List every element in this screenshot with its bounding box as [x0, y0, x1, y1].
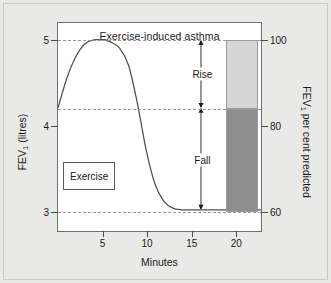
- x-tick-15: [192, 231, 193, 237]
- y-axis-right-title: FEV1 per cent predicted: [301, 86, 313, 198]
- figure-container: FEV1 (litres) FEV1 per cent predicted Mi…: [0, 0, 331, 283]
- y-tick-label-left-4: 4: [43, 120, 49, 131]
- y-tick-label-left-5: 5: [43, 35, 49, 46]
- bar-segment-rise: [226, 40, 258, 109]
- y-tick-right-100: [261, 40, 268, 41]
- y-tick-label-right-80: 80: [270, 120, 281, 131]
- y-tick-right-60: [261, 212, 268, 213]
- bar-segment-fall: [226, 109, 258, 212]
- arrow-head-fall-bottom: [198, 205, 203, 210]
- x-tick-label-15: 15: [186, 238, 197, 249]
- x-tick-10: [147, 231, 148, 237]
- y-tick-left-5: [51, 40, 58, 41]
- arrow-head-rise-bottom: [198, 103, 203, 108]
- x-tick-20: [236, 231, 237, 237]
- x-tick-5: [103, 231, 104, 237]
- exercise-marker-box: Exercise: [63, 162, 115, 190]
- y-tick-label-right-100: 100: [270, 35, 287, 46]
- x-tick-label-20: 20: [231, 238, 242, 249]
- y-tick-right-80: [261, 126, 268, 127]
- plot-inner: Exercise-induced asthma Exercise 5431008…: [58, 23, 261, 231]
- exercise-marker-label: Exercise: [70, 171, 108, 182]
- y-axis-left-title: FEV1 (litres): [16, 113, 28, 170]
- annotation-label-fall: Fall: [192, 154, 212, 167]
- y-tick-label-right-60: 60: [270, 206, 281, 217]
- x-tick-label-5: 5: [100, 238, 106, 249]
- y-axis-left-title-text: FEV1 (litres): [16, 113, 28, 170]
- x-tick-label-10: 10: [142, 238, 153, 249]
- y-axis-right-title-text: FEV1 per cent predicted: [301, 86, 313, 198]
- plot-area: Exercise-induced asthma Exercise 5431008…: [57, 22, 262, 232]
- y-tick-left-3: [51, 212, 58, 213]
- y-tick-left-4: [51, 126, 58, 127]
- x-axis-title: Minutes: [57, 256, 262, 268]
- gridline-60: [58, 212, 261, 213]
- annotation-label-rise: Rise: [190, 68, 214, 81]
- y-tick-label-left-3: 3: [43, 206, 49, 217]
